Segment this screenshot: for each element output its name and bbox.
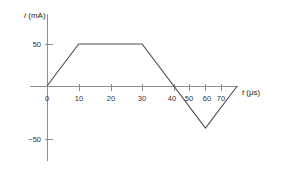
x-axis-title: t(μs) <box>242 88 261 97</box>
x-tick-label-10: 10 <box>75 94 83 103</box>
plot-canvas: 0 10 20 30 40 50 60 70 50 −50 i(mA) t(μs… <box>0 0 285 173</box>
current-waveform-figure: 0 10 20 30 40 50 60 70 50 −50 i(mA) t(μs… <box>0 0 285 173</box>
x-axis-title-unit: (μs) <box>246 88 260 97</box>
y-axis-title-unit: (mA) <box>28 11 46 20</box>
x-tick-label-0: 0 <box>45 94 49 103</box>
x-tick-label-60: 60 <box>203 94 211 103</box>
x-axis-title-variable: t <box>242 88 245 97</box>
y-axis-ticks <box>45 45 53 140</box>
x-tick-label-30: 30 <box>138 94 146 103</box>
y-axis-title: i(mA) <box>24 11 46 20</box>
x-tick-label-20: 20 <box>107 94 115 103</box>
y-axis-title-variable: i <box>24 11 26 20</box>
x-tick-label-70: 70 <box>217 94 225 103</box>
y-tick-labels: 50 −50 <box>28 40 41 144</box>
y-tick-label-minus-50: −50 <box>28 135 41 144</box>
x-tick-label-50: 50 <box>185 94 193 103</box>
y-tick-label-50: 50 <box>33 40 41 49</box>
x-tick-labels: 0 10 20 30 40 50 60 70 <box>45 94 225 103</box>
x-tick-label-40: 40 <box>168 94 176 103</box>
